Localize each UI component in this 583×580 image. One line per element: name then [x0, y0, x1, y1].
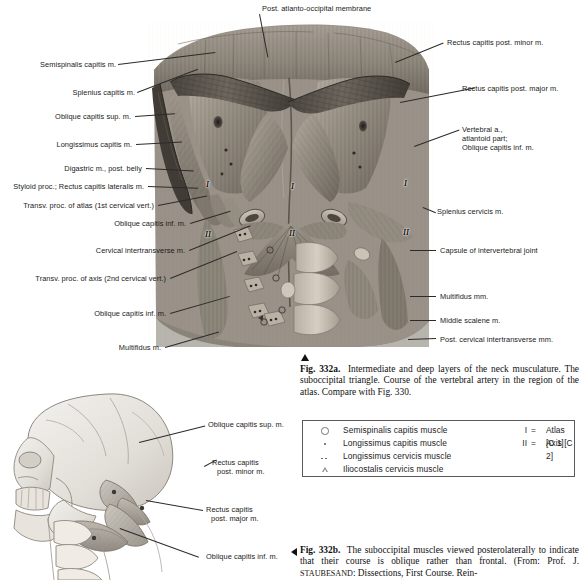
legend-symbol-dot-icon — [317, 437, 333, 450]
label-b-rectus-capitis-post-major: Rectus capitis post. major m. — [206, 505, 286, 523]
figure-332a-number: Fig. 332a. — [300, 364, 340, 374]
label-vertebral-artery-line-1: Vertebral a., — [462, 125, 580, 134]
legend-row-longissimus-cervicis: Longissimus cervicis muscle — [303, 450, 574, 463]
legend-vertebra-equals-2: = — [531, 437, 536, 450]
vertebra-marker-II-left: II — [205, 230, 211, 239]
legend-symbol-double-dot-icon — [317, 450, 333, 463]
label-vertebral-artery-line-3: Oblique capitis inf. m. — [462, 143, 580, 152]
vertebra-marker-I-center: I — [291, 182, 294, 191]
label-oblique-capitis-inf-lower: Oblique capitis inf. m. — [0, 309, 166, 318]
vertebra-marker-II-center: II — [289, 229, 295, 238]
leader-line-middle-scalene — [410, 320, 436, 321]
legend-symbol-circle-icon — [317, 424, 333, 437]
label-multifidus-m: Multifidus m. — [0, 343, 161, 352]
figure-332b-author-smallcaps: Staubesand — [300, 569, 353, 578]
label-oblique-capitis-inf-upper: Oblique capitis inf. m. — [0, 219, 186, 228]
label-rectus-capitis-post-major: Rectus capitis post. major m. — [462, 84, 558, 93]
label-semispinalis-capitis: Semispinalis capitis m. — [0, 60, 116, 69]
label-transv-proc-atlas: Transv. proc. of atlas (1st cervical ver… — [0, 201, 154, 210]
label-multifidus-mm: Multifidus mm. — [440, 292, 488, 301]
label-splenius-capitis: Splenius capitis m. — [0, 88, 135, 97]
label-b-rectus-capitis-post-minor: Rectus capitis post. minor m. — [212, 458, 292, 476]
legend-vertebra-numeral-II: II — [511, 437, 527, 450]
label-middle-scalene: Middle scalene m. — [440, 316, 500, 325]
leader-line-multifidus-mm — [410, 296, 436, 297]
figure-332a-caption: Fig. 332a. Intermediate and deep layers … — [300, 364, 579, 398]
figure-332a-caption-text: Intermediate and deep layers of the neck… — [300, 364, 579, 397]
label-post-atlanto-occipital-membrane: Post. atlanto-occipital membrane — [262, 4, 371, 13]
label-oblique-capitis-sup: Oblique capitis sup. m. — [0, 112, 131, 121]
label-styloid-rectus-lateralis: Styloid proc.; Rectus capitis lateralis … — [0, 182, 144, 191]
label-b-oblique-capitis-sup: Oblique capitis sup. m. — [208, 420, 284, 429]
caption-a-arrow-icon — [301, 354, 309, 361]
figure-332b-caption-text-2: : Dissections, First Course. Rein- — [353, 568, 477, 578]
vertebra-marker-II-right: II — [403, 228, 409, 237]
legend-vertebra-numeral-I: I — [511, 424, 527, 437]
legend-label-longissimus-capitis: Longissimus capitis muscle — [343, 437, 447, 450]
leader-line-capsule — [410, 250, 436, 251]
label-b-rectus-minor-line-1: Rectus capitis — [212, 458, 292, 467]
label-b-rectus-minor-line-2: post. minor m. — [212, 467, 292, 476]
caption-b-arrow-icon — [291, 548, 297, 556]
label-vertebral-artery-line-2: atlantoid part; — [462, 134, 580, 143]
legend-label-semispinalis: Semispinalis capitis muscle — [343, 424, 448, 437]
legend-row-semispinalis: Semispinalis capitis muscle I = Atlas [C… — [303, 424, 574, 437]
legend-row-longissimus-capitis: Longissimus capitis muscle II = Axis [C … — [303, 437, 574, 450]
label-capsule-intervertebral-joint: Capsule of intervertebral joint — [440, 246, 538, 255]
legend-row-iliocostalis-cervicis: Iliocostalis cervicis muscle — [303, 463, 574, 476]
figure-332b-caption-text-1: The suboccipital muscles viewed posterol… — [300, 545, 579, 566]
textbook-page: I II I II I II Post. atlanto-occipital m… — [0, 0, 583, 580]
figure-332a-legend-box: Semispinalis capitis muscle I = Atlas [C… — [302, 420, 575, 477]
vertebra-marker-I-right: I — [404, 179, 407, 188]
label-longissimus-capitis: Longissimus capitis m. — [0, 140, 132, 149]
label-splenius-cervicis: Splenius cervicis m. — [437, 207, 503, 216]
label-digastric-post-belly: Digastric m., post. belly — [0, 164, 142, 173]
label-b-oblique-capitis-inf: Oblique capitis inf. m. — [206, 552, 278, 561]
vertebra-marker-I-left: I — [206, 180, 209, 189]
label-b-rectus-major-line-1: Rectus capitis — [206, 505, 286, 514]
legend-label-longissimus-cervicis: Longissimus cervicis muscle — [343, 450, 451, 463]
label-transv-proc-axis: Transv. proc. of axis (2nd cervical vert… — [0, 274, 166, 283]
label-rectus-capitis-post-minor: Rectus capitis post. minor m. — [447, 38, 543, 47]
label-vertebral-artery-atlantoid: Vertebral a., atlantoid part; Oblique ca… — [462, 125, 580, 153]
figure-332b-caption: Fig. 332b. The suboccipital muscles view… — [300, 545, 579, 579]
label-b-rectus-major-line-2: post. major m. — [206, 514, 286, 523]
legend-symbol-triangle-icon — [317, 463, 333, 476]
label-cervical-intertransverse: Cervical intertransverse m. — [0, 246, 185, 255]
legend-label-iliocostalis-cervicis: Iliocostalis cervicis muscle — [343, 463, 444, 476]
label-post-cervical-intertransverse: Post. cervical intertransverse mm. — [440, 335, 553, 344]
legend-vertebra-equals-1: = — [531, 424, 536, 437]
figure-332b-number: Fig. 332b. — [300, 545, 340, 555]
